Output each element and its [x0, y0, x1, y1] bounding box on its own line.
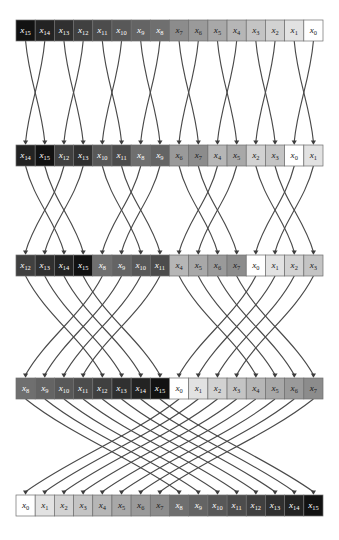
edge	[294, 41, 313, 142]
stage-4	[23, 399, 316, 495]
cell: x3	[227, 378, 246, 399]
cell-label-subscript: 0	[26, 504, 29, 511]
cell: x12	[74, 20, 93, 41]
edge	[45, 276, 122, 375]
cell-label-subscript: 10	[120, 29, 126, 36]
cell-label-subscript: 15	[24, 29, 30, 36]
cell: x8	[150, 20, 169, 41]
cell-label-subscript: 3	[237, 387, 240, 394]
cell: x0	[304, 20, 323, 41]
edge-arrowhead	[157, 251, 162, 255]
cell: x11	[74, 378, 93, 399]
cell: x6	[170, 145, 189, 166]
edge-arrowhead	[23, 491, 28, 495]
edge	[64, 41, 83, 142]
cell: x6	[208, 255, 227, 276]
cell: x13	[265, 495, 284, 516]
cell: x14	[54, 255, 73, 276]
edge-arrowhead	[23, 374, 28, 378]
cell-label-subscript: 12	[24, 264, 30, 271]
edge-arrowhead	[81, 251, 86, 255]
cell: x0	[285, 145, 304, 166]
cell-label-subscript: 0	[180, 387, 183, 394]
stage-2	[23, 166, 316, 255]
cell-label-subscript: 11	[82, 387, 88, 394]
edge-arrowhead	[100, 251, 105, 255]
edge-arrowhead	[311, 251, 316, 255]
edge-arrowhead	[311, 374, 316, 378]
stage-1	[23, 41, 316, 145]
cell: x3	[74, 495, 93, 516]
edge-arrowhead	[234, 374, 239, 378]
edge-arrowhead	[176, 491, 181, 495]
edge	[275, 166, 313, 252]
cell: x8	[16, 378, 35, 399]
cell: x4	[227, 20, 246, 41]
cell: x9	[150, 145, 169, 166]
cell: x14	[16, 145, 35, 166]
edge	[26, 276, 103, 375]
cell: x1	[304, 145, 323, 166]
cell: x3	[304, 255, 323, 276]
edge-arrowhead	[42, 491, 47, 495]
cell: x14	[285, 495, 304, 516]
cell: x2	[246, 145, 265, 166]
cell: x5	[208, 20, 227, 41]
edge	[256, 41, 275, 142]
edge	[217, 276, 294, 375]
edge	[26, 41, 45, 142]
edge-arrowhead	[292, 374, 297, 378]
cell: x6	[189, 20, 208, 41]
cell: x11	[112, 145, 131, 166]
edge	[45, 166, 83, 252]
cell: x1	[189, 378, 208, 399]
cell-label-subscript: 0	[295, 154, 298, 161]
cell: x9	[112, 255, 131, 276]
edge-arrowhead	[138, 141, 143, 145]
cell-label-subscript: 12	[255, 504, 261, 511]
cell-label-subscript: 9	[45, 387, 48, 394]
cell: x8	[170, 495, 189, 516]
cell-label-subscript: 5	[237, 154, 240, 161]
row-input: x15x14x13x12x11x10x9x8x7x6x5x4x3x2x1x0	[16, 20, 323, 41]
cell-label-subscript: 2	[275, 29, 278, 36]
cell-label-subscript: 14	[293, 504, 300, 511]
edge	[179, 166, 217, 252]
cell-label-subscript: 9	[141, 29, 144, 36]
cell-label-subscript: 11	[236, 504, 242, 511]
cell: x10	[131, 255, 150, 276]
cell-label-subscript: 9	[122, 264, 125, 271]
edge-arrowhead	[196, 141, 201, 145]
cell: x12	[93, 378, 112, 399]
cell-label-subscript: 2	[64, 504, 67, 511]
cell: x1	[285, 20, 304, 41]
row-after-stage-1: x14x15x12x13x10x11x8x9x6x7x4x5x2x3x0x1	[16, 145, 323, 166]
edge-arrowhead	[311, 491, 316, 495]
cell-label-subscript: 10	[216, 504, 222, 511]
cell-label-subscript: 14	[140, 387, 147, 394]
cell: x5	[265, 378, 284, 399]
edge-arrowhead	[61, 251, 66, 255]
edge	[217, 41, 236, 142]
cell: x14	[35, 20, 54, 41]
cell-label-subscript: 10	[101, 154, 107, 161]
cell-label-subscript: 1	[275, 264, 278, 271]
cell-label-subscript: 6	[218, 264, 221, 271]
cell-label-subscript: 5	[275, 387, 278, 394]
cell: x2	[285, 255, 304, 276]
edge-arrowhead	[119, 374, 124, 378]
cell-label-subscript: 15	[159, 387, 165, 394]
cell-label-subscript: 15	[44, 154, 50, 161]
cell: x0	[170, 378, 189, 399]
edge-arrowhead	[157, 374, 162, 378]
edge-arrowhead	[253, 141, 258, 145]
cell: x3	[265, 145, 284, 166]
cell: x9	[189, 495, 208, 516]
edge-arrowhead	[196, 374, 201, 378]
edge-arrowhead	[272, 251, 277, 255]
cell: x8	[93, 255, 112, 276]
cell-label-subscript: 13	[120, 387, 126, 394]
cell: x8	[131, 145, 150, 166]
cell: x2	[265, 20, 284, 41]
cell: x4	[208, 145, 227, 166]
